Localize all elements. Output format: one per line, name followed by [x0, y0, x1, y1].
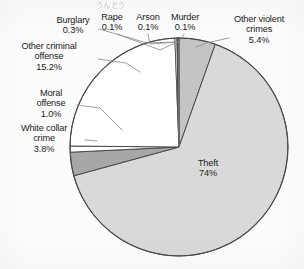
label-other-criminal-offense-line1: Other criminal — [5, 41, 93, 51]
label-white-collar-crime: White collar crime 3.8% — [8, 123, 80, 154]
label-other-violent-crimes-line1: Other violent — [218, 14, 300, 24]
label-arson: Arson 0.1% — [128, 12, 168, 33]
label-arson-name: Arson — [128, 12, 168, 22]
label-murder-pct: 0.1% — [163, 22, 207, 32]
label-rape-name: Rape — [93, 12, 131, 22]
label-moral-offense-line2: offense — [25, 98, 77, 108]
pie-chart-figure: うんとう — [0, 0, 304, 269]
label-other-criminal-offense-line2: offense — [5, 51, 93, 61]
label-moral-offense-line1: Moral — [25, 88, 77, 98]
label-white-collar-crime-pct: 3.8% — [8, 144, 80, 154]
label-white-collar-crime-line1: White collar — [8, 123, 80, 133]
label-rape: Rape 0.1% — [93, 12, 131, 33]
label-white-collar-crime-line2: crime — [8, 133, 80, 143]
label-moral-offense: Moral offense 1.0% — [25, 88, 77, 119]
label-other-violent-crimes-pct: 5.4% — [218, 35, 300, 45]
label-theft-name: Theft — [185, 158, 231, 168]
label-other-violent-crimes-line2: crimes — [218, 24, 300, 34]
label-theft-pct: 74% — [185, 168, 231, 178]
label-moral-offense-pct: 1.0% — [25, 109, 77, 119]
label-other-criminal-offense-pct: 15.2% — [5, 62, 93, 72]
label-other-violent-crimes: Other violent crimes 5.4% — [218, 14, 300, 45]
label-rape-pct: 0.1% — [93, 22, 131, 32]
label-murder: Murder 0.1% — [163, 12, 207, 33]
label-murder-name: Murder — [163, 12, 207, 22]
label-theft: Theft 74% — [185, 158, 231, 179]
label-other-criminal-offense: Other criminal offense 15.2% — [5, 41, 93, 72]
slice-murder — [178, 38, 179, 147]
label-arson-pct: 0.1% — [128, 22, 168, 32]
